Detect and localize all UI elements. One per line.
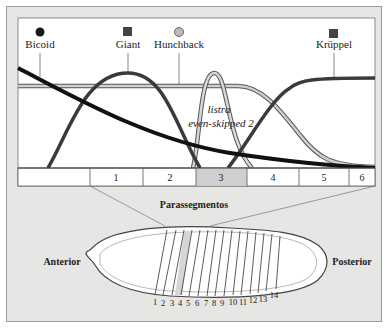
stripe-number: 1 <box>153 297 157 307</box>
legend-label-hunchback: Hunchback <box>154 38 205 50</box>
stripe-number: 6 <box>195 298 199 308</box>
stripe-number: 11 <box>239 297 247 307</box>
stripe-number: 14 <box>270 290 279 300</box>
stripe-number: 12 <box>249 295 258 305</box>
stripe-number: 2 <box>161 298 165 308</box>
segment-label-5: 5 <box>322 172 327 183</box>
stripe-number: 7 <box>204 298 208 308</box>
giant-marker-icon <box>123 27 132 36</box>
segment-label-2: 2 <box>168 172 173 183</box>
stripe-number: 4 <box>178 298 183 308</box>
stripe-label-line1: listra <box>207 103 231 115</box>
projection-line-right <box>210 186 375 226</box>
segment-label-3: 3 <box>219 172 224 183</box>
stripe-number: 3 <box>170 298 174 308</box>
posterior-label: Posterior <box>332 256 372 267</box>
gene-expression-diagram: Bicoid Giant Hunchback Krüppel listra ev… <box>0 0 389 329</box>
hunchback-marker-icon <box>175 28 184 37</box>
legend-label-giant: Giant <box>116 38 140 50</box>
projection-line-left <box>90 186 165 226</box>
segment-label-1: 1 <box>114 172 119 183</box>
kruppel-marker-icon <box>329 29 338 38</box>
anterior-label: Anterior <box>43 256 81 267</box>
segment-label-4: 4 <box>271 172 276 183</box>
stripe-number: 13 <box>259 294 268 304</box>
stripe-number: 8 <box>212 298 216 308</box>
legend-label-bicoid: Bicoid <box>25 38 55 50</box>
stripe-label-line2: even-skipped 2 <box>188 117 254 129</box>
stripe-number: 9 <box>220 298 224 308</box>
segment-label-6: 6 <box>360 172 365 183</box>
stripe-number: 5 <box>186 298 190 308</box>
stripe-number: 10 <box>229 297 238 307</box>
legend-label-kruppel: Krüppel <box>316 38 352 50</box>
bicoid-marker-icon <box>36 28 45 37</box>
parasegments-label: Parassegmentos <box>160 199 228 210</box>
